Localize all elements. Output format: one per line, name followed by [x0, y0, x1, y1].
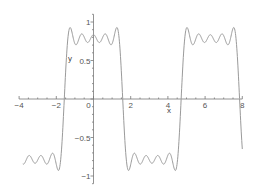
tick-label: −0.5: [75, 134, 91, 143]
x-axis-label: x: [167, 106, 171, 115]
y-axis-label: y: [68, 54, 72, 63]
tick-label: 2: [128, 101, 133, 110]
tick-label: −2: [52, 101, 62, 110]
tick-label: 0.5: [79, 57, 91, 66]
tick-label: −4: [15, 101, 25, 110]
tick-label: 1: [86, 18, 91, 27]
tick-label: 8: [240, 101, 245, 110]
chart-canvas: −4−224680 −1−0.50.51 x y: [0, 0, 257, 196]
tick-label: −1: [81, 172, 91, 181]
x-axis: −4−224680: [15, 96, 246, 110]
tick-label: 0: [86, 101, 91, 110]
tick-label: 6: [203, 101, 208, 110]
